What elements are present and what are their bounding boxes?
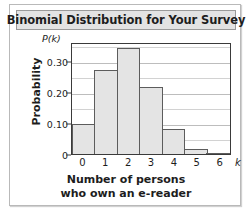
bar-3	[139, 87, 163, 154]
figure-frame: Binomial Distribution for Your Survey Pr…	[9, 4, 241, 206]
chart-axes	[71, 43, 231, 155]
x-tick-label: 3	[148, 157, 154, 168]
y-tick-label: 0.30	[47, 56, 68, 67]
y-tick-mark	[66, 92, 71, 93]
y-axis-tick-labels: 00.100.200.30	[30, 43, 68, 155]
x-axis-label: Number of personswho own an e-reader	[16, 173, 236, 200]
x-axis-tick-labels: 0123456	[71, 157, 231, 171]
bar-5	[184, 149, 208, 154]
x-tick-label: 2	[125, 157, 131, 168]
bar-0	[72, 124, 96, 154]
chart-title-bar: Binomial Distribution for Your Survey	[16, 10, 236, 30]
y-tick-label: 0.20	[47, 87, 68, 98]
y-tick-label: 0.10	[47, 118, 68, 129]
chart-plot-area: Probability P(k) 00.100.200.30 0123456 k…	[16, 33, 236, 203]
x-axis-label-line: Number of persons	[16, 173, 236, 187]
y-tick-mark	[66, 61, 71, 62]
bar-6	[206, 153, 230, 154]
x-tick-label: 1	[102, 157, 108, 168]
x-axis-symbol-label: k	[235, 157, 241, 168]
y-tick-mark	[66, 123, 71, 124]
y-tick-mark	[66, 155, 71, 156]
bar-1	[94, 70, 118, 154]
bar-2	[117, 48, 141, 154]
page-title: Binomial Distribution for Your Survey	[7, 13, 246, 27]
bar-4	[162, 129, 186, 154]
x-tick-label: 4	[171, 157, 177, 168]
bar-series	[72, 44, 230, 154]
x-tick-label: 6	[216, 157, 222, 168]
x-axis-label-line: who own an e-reader	[16, 187, 236, 201]
x-tick-label: 0	[79, 157, 85, 168]
x-tick-label: 5	[194, 157, 200, 168]
